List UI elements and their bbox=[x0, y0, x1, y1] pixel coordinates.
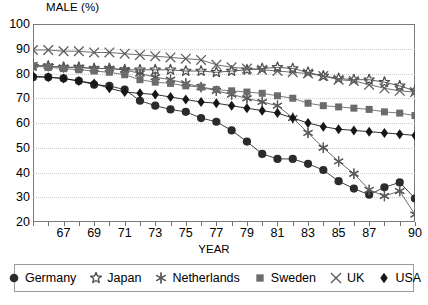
data-point-filled-circle bbox=[380, 183, 388, 191]
data-point-filled-square bbox=[228, 87, 235, 94]
data-point-filled-square bbox=[381, 108, 388, 115]
data-point-filled-square bbox=[106, 69, 113, 76]
y-tick-label: 40 bbox=[2, 167, 30, 179]
data-point-asterisk bbox=[319, 143, 328, 153]
legend-item-uk: UK bbox=[329, 271, 364, 285]
data-point-filled-diamond bbox=[320, 122, 327, 132]
data-point-filled-square bbox=[91, 68, 98, 75]
data-point-filled-square bbox=[274, 92, 281, 99]
series-line bbox=[33, 65, 415, 215]
data-point-star bbox=[349, 74, 359, 84]
legend-label: Sweden bbox=[271, 271, 316, 285]
legend-item-sweden: Sweden bbox=[253, 271, 316, 285]
y-tick-label: 100 bbox=[2, 18, 30, 30]
data-point-x-cross bbox=[364, 80, 374, 90]
data-point-star bbox=[333, 73, 343, 83]
data-point-filled-square bbox=[366, 106, 373, 113]
series-line bbox=[33, 77, 415, 198]
x-tick-label: 90 bbox=[408, 226, 422, 240]
legend-label: Germany bbox=[25, 271, 76, 285]
data-point-filled-square bbox=[136, 76, 143, 83]
data-point-star bbox=[196, 66, 206, 76]
data-point-filled-diamond bbox=[366, 127, 373, 137]
data-point-filled-diamond bbox=[75, 76, 82, 86]
x-tick-label: 83 bbox=[301, 226, 315, 240]
y-axis-tick-labels: 2030405060708090100 bbox=[0, 0, 30, 305]
data-point-asterisk bbox=[334, 156, 343, 166]
data-point-filled-diamond bbox=[350, 125, 357, 135]
legend-item-germany: Germany bbox=[7, 271, 76, 285]
data-point-filled-circle bbox=[243, 137, 251, 145]
data-point-star bbox=[364, 74, 374, 84]
data-point-star bbox=[257, 63, 267, 73]
data-point-filled-diamond bbox=[274, 108, 281, 118]
data-point-filled-diamond bbox=[136, 88, 143, 98]
data-point-filled-square bbox=[259, 90, 266, 97]
y-tick-label: 80 bbox=[2, 68, 30, 80]
data-point-filled-circle bbox=[289, 155, 297, 163]
data-point-filled-circle bbox=[335, 177, 343, 185]
data-point-filled-diamond bbox=[213, 98, 220, 108]
x-axis-tick-labels: 676971737577798183858790 bbox=[0, 226, 428, 242]
series-sweden bbox=[33, 63, 415, 119]
data-point-filled-square bbox=[167, 80, 174, 87]
data-point-filled-square bbox=[213, 86, 220, 93]
legend-label: Japan bbox=[107, 271, 141, 285]
legend-item-usa: USA bbox=[377, 271, 421, 285]
x-tick-label: 85 bbox=[332, 226, 346, 240]
data-point-filled-circle bbox=[228, 126, 236, 134]
data-point-filled-square bbox=[320, 102, 327, 109]
data-point-filled-circle bbox=[258, 150, 266, 158]
legend-marker-filled-square bbox=[253, 271, 267, 285]
x-tick-label: 79 bbox=[240, 226, 254, 240]
legend-item-japan: Japan bbox=[89, 271, 141, 285]
legend-marker-star bbox=[89, 271, 103, 285]
data-point-filled-circle bbox=[396, 178, 404, 186]
data-point-filled-square bbox=[33, 63, 37, 70]
legend-marker-asterisk bbox=[154, 271, 168, 285]
x-axis-title: YEAR bbox=[0, 243, 428, 255]
y-tick-label: 90 bbox=[2, 43, 30, 55]
data-point-filled-square bbox=[289, 95, 296, 102]
data-point-asterisk bbox=[258, 97, 267, 107]
x-tick-label: 77 bbox=[209, 226, 223, 240]
data-point-star bbox=[181, 66, 191, 76]
data-point-filled-circle bbox=[151, 102, 159, 110]
data-point-filled-diamond bbox=[304, 118, 311, 128]
data-point-filled-diamond bbox=[396, 129, 403, 139]
data-point-filled-square bbox=[305, 100, 312, 107]
data-point-filled-square bbox=[182, 82, 189, 89]
legend-item-netherlands: Netherlands bbox=[154, 271, 239, 285]
data-point-filled-diamond bbox=[381, 128, 388, 138]
data-point-filled-circle bbox=[197, 114, 205, 122]
legend-label: Netherlands bbox=[172, 271, 239, 285]
data-point-filled-diamond bbox=[289, 113, 296, 123]
data-point-filled-diamond bbox=[335, 124, 342, 134]
y-tick-label: 50 bbox=[2, 142, 30, 154]
data-point-filled-circle bbox=[166, 105, 174, 113]
data-point-asterisk bbox=[157, 273, 166, 284]
data-point-filled-circle bbox=[350, 184, 358, 192]
data-point-filled-square bbox=[121, 71, 128, 78]
x-tick-label: 75 bbox=[179, 226, 193, 240]
data-point-filled-diamond bbox=[228, 101, 235, 111]
data-point-filled-diamond bbox=[411, 130, 415, 140]
data-point-filled-diamond bbox=[197, 97, 204, 107]
x-tick-label: 87 bbox=[362, 226, 376, 240]
data-point-filled-diamond bbox=[243, 103, 250, 113]
data-point-filled-circle bbox=[212, 118, 220, 126]
data-point-filled-square bbox=[396, 110, 403, 117]
data-point-filled-diamond bbox=[60, 73, 67, 83]
y-tick-label: 60 bbox=[2, 117, 30, 129]
data-point-filled-square bbox=[75, 66, 82, 73]
data-point-filled-square bbox=[350, 105, 357, 112]
x-tick-label: 81 bbox=[271, 226, 285, 240]
chart-legend: GermanyJapanNetherlandsSwedenUKUSA bbox=[14, 264, 414, 292]
data-point-filled-circle bbox=[273, 155, 281, 163]
plot-area bbox=[33, 24, 415, 222]
data-point-filled-square bbox=[60, 65, 67, 72]
legend-label: UK bbox=[347, 271, 364, 285]
data-point-star bbox=[303, 67, 313, 77]
data-point-filled-diamond bbox=[259, 106, 266, 116]
data-point-filled-square bbox=[256, 274, 263, 281]
